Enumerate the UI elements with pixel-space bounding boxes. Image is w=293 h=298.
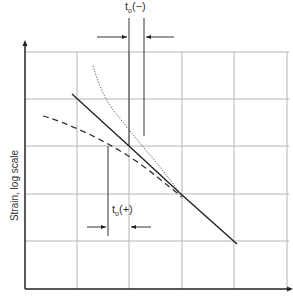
y-axis-arrow-icon bbox=[23, 40, 28, 46]
x-axis-arrow-icon bbox=[287, 287, 293, 292]
y-axis-label: Strain, log scale bbox=[9, 136, 20, 236]
axes bbox=[25, 44, 291, 289]
t0-plus-label: to(+) bbox=[112, 203, 133, 217]
dashed-curve bbox=[43, 116, 182, 197]
t0-minus-suffix: (−) bbox=[132, 0, 146, 12]
t0-plus-suffix: (+) bbox=[119, 203, 133, 215]
solid-line bbox=[72, 94, 237, 244]
t0-plus-marker bbox=[87, 146, 151, 236]
grid bbox=[25, 52, 289, 289]
strain-diagram bbox=[0, 0, 293, 298]
dotted-curve bbox=[93, 66, 180, 193]
t0-minus-label: to(−) bbox=[125, 0, 146, 14]
